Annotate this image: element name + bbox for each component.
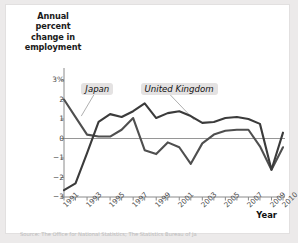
series-label-japan: Japan [81, 83, 113, 95]
x-tick-label: 2003 [199, 190, 218, 209]
x-tick-label: 1997 [130, 190, 149, 209]
chart-figure: Annual percent change in employment 3%21… [6, 5, 289, 233]
source-note: Source: The Office for National Statisti… [20, 231, 288, 237]
series-label-united-kingdom: United Kingdom [141, 83, 218, 95]
x-tick-label: 1993 [84, 190, 103, 209]
x-tick-label: 2001 [176, 190, 195, 209]
x-axis-tick-labels: 1991199319951997199920012003200520072009… [6, 5, 289, 233]
x-tick-label: 1991 [61, 190, 80, 209]
x-tick-label: 1995 [107, 190, 126, 209]
x-tick-label: 2005 [222, 190, 241, 209]
x-tick-label: 2007 [245, 190, 264, 209]
x-axis-title: Year [256, 210, 277, 220]
x-tick-label: 1999 [153, 190, 172, 209]
